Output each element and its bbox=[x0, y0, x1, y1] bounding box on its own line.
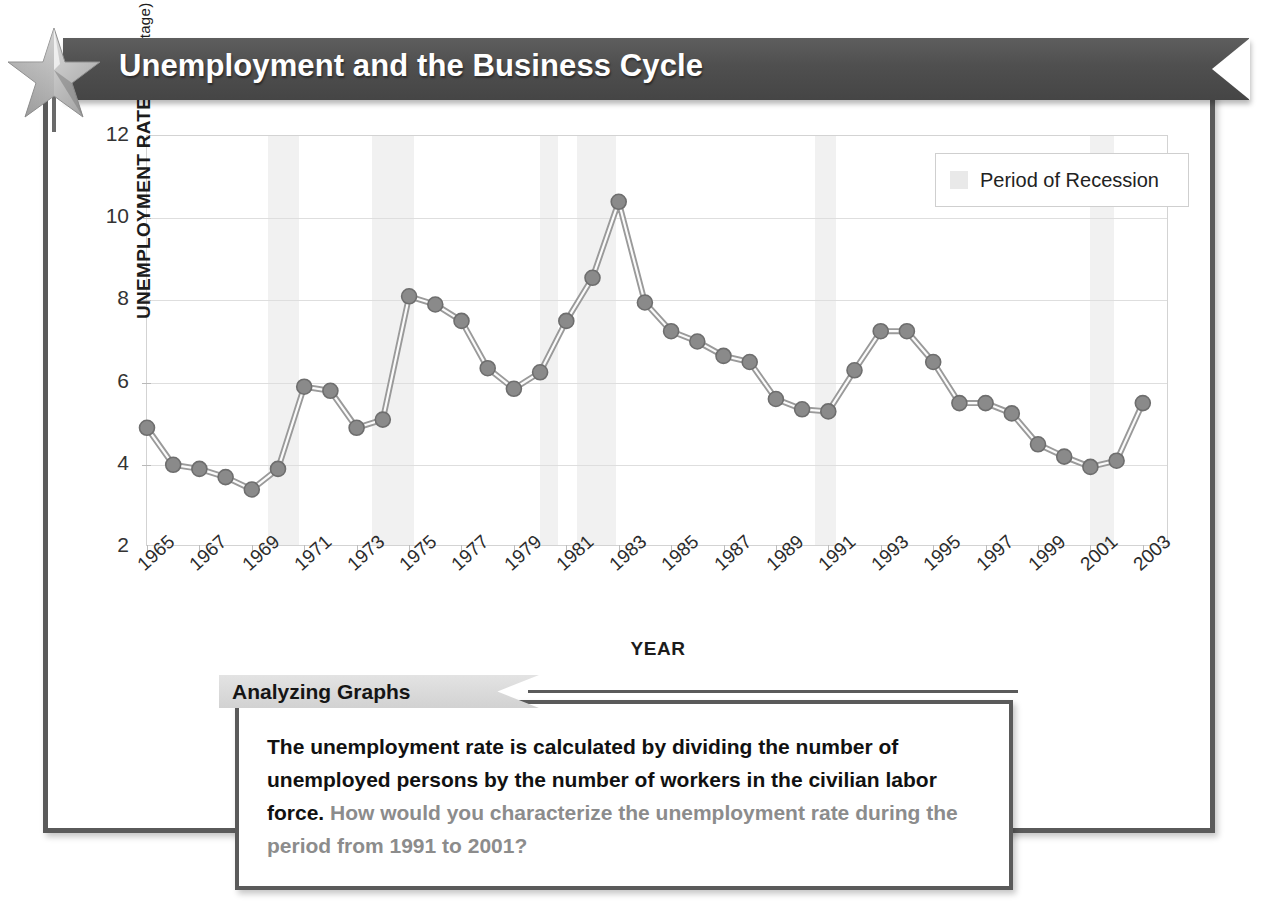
data-point bbox=[1135, 396, 1150, 411]
data-point bbox=[506, 381, 521, 396]
data-point bbox=[847, 363, 862, 378]
banner-notch bbox=[1212, 38, 1250, 100]
legend-label-recession: Period of Recession bbox=[980, 169, 1159, 192]
data-point bbox=[480, 361, 495, 376]
page-title: Unemployment and the Business Cycle bbox=[119, 48, 703, 84]
data-point bbox=[742, 355, 757, 370]
data-point bbox=[637, 295, 652, 310]
data-point bbox=[428, 297, 443, 312]
data-point bbox=[271, 461, 286, 476]
x-axis-title: YEAR bbox=[147, 638, 1169, 660]
data-point bbox=[166, 457, 181, 472]
y-axis-tick-label: 6 bbox=[85, 369, 129, 393]
y-axis-tick-label: 10 bbox=[85, 204, 129, 228]
data-point bbox=[821, 404, 836, 419]
star-icon bbox=[8, 22, 104, 132]
data-point bbox=[1004, 406, 1019, 421]
callout-body: The unemployment rate is calculated by d… bbox=[267, 730, 983, 862]
analyzing-graphs-callout: The unemployment rate is calculated by d… bbox=[235, 700, 1013, 890]
data-point bbox=[926, 355, 941, 370]
data-point bbox=[690, 334, 705, 349]
data-point bbox=[585, 270, 600, 285]
data-point bbox=[1057, 449, 1072, 464]
callout-tab: Analyzing Graphs bbox=[219, 675, 539, 708]
data-point bbox=[297, 379, 312, 394]
legend: Period of Recession bbox=[935, 153, 1189, 207]
title-banner: Unemployment and the Business Cycle bbox=[63, 38, 1249, 100]
data-point bbox=[873, 324, 888, 339]
data-point bbox=[899, 324, 914, 339]
data-point bbox=[1083, 459, 1098, 474]
data-point bbox=[1031, 437, 1046, 452]
data-point bbox=[192, 461, 207, 476]
data-point bbox=[978, 396, 993, 411]
data-point bbox=[349, 420, 364, 435]
data-point bbox=[402, 289, 417, 304]
data-point bbox=[375, 412, 390, 427]
data-point bbox=[454, 313, 469, 328]
data-point bbox=[768, 392, 783, 407]
data-point bbox=[218, 470, 233, 485]
y-axis-tick-label: 2 bbox=[85, 533, 129, 557]
data-point bbox=[559, 313, 574, 328]
data-point bbox=[664, 324, 679, 339]
callout-tab-label: Analyzing Graphs bbox=[232, 680, 411, 704]
callout-tab-rule bbox=[528, 690, 1018, 693]
data-point bbox=[323, 383, 338, 398]
legend-swatch-recession bbox=[950, 171, 968, 189]
data-point bbox=[244, 482, 259, 497]
data-point bbox=[611, 194, 626, 209]
data-point bbox=[716, 348, 731, 363]
y-axis-tick-label: 4 bbox=[85, 451, 129, 475]
data-point bbox=[140, 420, 155, 435]
data-point bbox=[1109, 453, 1124, 468]
y-axis-tick-label: 8 bbox=[85, 286, 129, 310]
data-point bbox=[795, 402, 810, 417]
callout-question: How would you characterize the unemploym… bbox=[267, 801, 958, 857]
data-point bbox=[533, 365, 548, 380]
chart-plot-area: UNEMPLOYMENT RATE (percentage) YEAR 2468… bbox=[146, 135, 1168, 546]
data-point bbox=[952, 396, 967, 411]
